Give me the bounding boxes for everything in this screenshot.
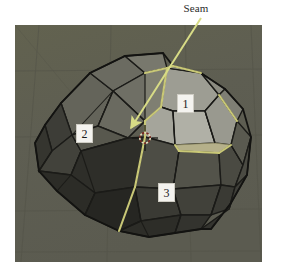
figure-root: Seam xyxy=(0,0,281,272)
blender-3d-viewport[interactable] xyxy=(15,25,262,262)
seam-annotation-label: Seam xyxy=(168,2,224,14)
callout-label-2: 2 xyxy=(76,124,93,143)
mesh-face-dark xyxy=(173,151,221,189)
viewport-canvas xyxy=(15,25,262,262)
callout-label-1: 1 xyxy=(177,94,194,113)
callout-label-3: 3 xyxy=(158,183,175,202)
